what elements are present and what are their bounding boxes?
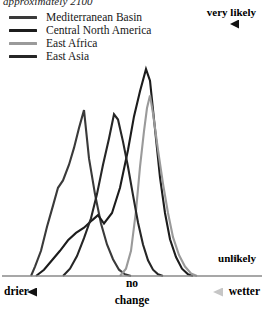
density-curve-mediterranean-basin [31,110,131,276]
axis-label-unlikely: unlikely [218,252,256,264]
axis-label-very-likely: very likely [207,6,256,18]
density-curves [31,69,197,276]
axis-label-no: no [0,277,264,289]
density-curve-central-north-america [36,69,193,276]
plot-area [0,0,264,315]
density-curve-east-asia [63,114,163,276]
climate-likelihood-figure: approximately 2100 Mediterranean Basin C… [0,0,264,315]
axis-label-change: change [0,294,264,306]
